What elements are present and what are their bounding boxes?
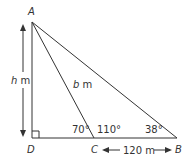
triangle-diagram: A D C B h m b m 120 m 70° 110° 38° [0, 0, 190, 162]
arrow-right-icon [165, 147, 172, 153]
arrow-left-icon [102, 147, 109, 153]
right-angle-marker [32, 131, 39, 138]
height-label: h m [11, 75, 30, 86]
arrow-up-icon [20, 24, 26, 31]
angle-ACD: 70° [72, 124, 90, 135]
angle-ABC: 38° [145, 124, 163, 135]
line-AB [32, 22, 177, 138]
arrow-down-icon [20, 130, 26, 137]
label-B: B [175, 144, 182, 155]
label-A: A [27, 6, 35, 17]
label-C: C [91, 144, 98, 155]
base-label: 120 m [123, 145, 155, 156]
hyp-label: b m [73, 79, 92, 90]
angle-ACB: 110° [97, 124, 121, 135]
label-D: D [27, 144, 35, 155]
